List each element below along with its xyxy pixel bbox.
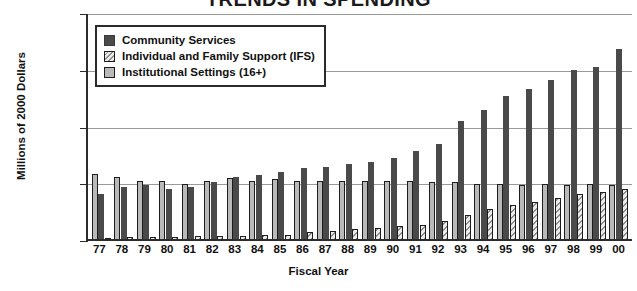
bar-individual-family-support-89 [375,228,381,239]
bar-community-services-99 [593,67,599,239]
bar-individual-family-support-98 [577,194,583,239]
y-axis-tick [80,241,88,242]
x-axis-tick-label-81: 81 [178,243,201,263]
bar-community-services-98 [571,70,577,239]
bar-community-services-78 [121,187,127,239]
x-axis-tick-label-79: 79 [133,243,156,263]
bar-institutional-settings-83 [227,178,233,239]
bar-institutional-settings-93 [452,182,458,239]
bar-group-90 [383,12,406,239]
bar-institutional-settings-80 [159,181,165,239]
bar-group-91 [405,12,428,239]
x-axis-tick-label-96: 96 [517,243,540,263]
chart-legend: Community Services Individual and Family… [95,25,326,87]
bar-institutional-settings-99 [587,184,593,239]
x-axis-tick-label-97: 97 [540,243,563,263]
bar-institutional-settings-91 [407,181,413,239]
bar-individual-family-support-87 [330,231,336,240]
chart-root: TRENDS IN SPENDING Millions of 2000 Doll… [0,0,637,291]
bar-group-97 [540,12,563,239]
legend-item-community-services: Community Services [104,32,315,48]
bar-group-93 [450,12,473,239]
bar-institutional-settings-78 [114,177,120,239]
legend-label: Individual and Family Support (IFS) [122,50,315,62]
x-axis-tick-label-91: 91 [404,243,427,263]
bar-individual-family-support-77 [105,238,111,239]
x-axis-tick-label-82: 82 [201,243,224,263]
bar-institutional-settings-81 [182,184,188,239]
x-axis-title: Fiscal Year [0,265,637,277]
y-axis-tick [80,184,88,185]
bar-institutional-settings-94 [474,184,480,239]
y-axis-tick [80,14,88,15]
x-axis-tick-labels: 7778798081828384858687888990919293949596… [86,243,632,263]
x-axis-tick-label-83: 83 [223,243,246,263]
bar-individual-family-support-93 [465,215,471,239]
bar-community-services-94 [481,110,487,239]
bar-institutional-settings-92 [429,182,435,239]
y-axis-tick [80,71,88,72]
legend-item-institutional-settings: Institutional Settings (16+) [104,64,315,80]
bar-institutional-settings-98 [564,185,570,239]
legend-swatch-community-services-icon [104,35,115,46]
x-axis-tick-label-88: 88 [336,243,359,263]
legend-label: Institutional Settings (16+) [122,66,266,78]
legend-swatch-institutional-icon [104,67,115,78]
bar-community-services-93 [458,121,464,239]
bar-individual-family-support-95 [510,205,516,239]
bar-institutional-settings-86 [294,181,300,239]
legend-item-individual-family-support: Individual and Family Support (IFS) [104,48,315,64]
bar-group-96 [518,12,541,239]
bar-community-services-92 [436,144,442,239]
bar-community-services-00 [616,49,622,239]
bar-community-services-95 [503,96,509,239]
bar-individual-family-support-96 [532,202,538,239]
x-axis-tick-label-92: 92 [427,243,450,263]
bar-community-services-84 [256,175,262,239]
x-axis-tick-label-77: 77 [88,243,111,263]
bar-group-98 [563,12,586,239]
bar-group-94 [473,12,496,239]
bar-community-services-88 [346,164,352,239]
bar-individual-family-support-90 [397,226,403,239]
x-axis-tick-label-89: 89 [359,243,382,263]
x-axis-tick-label-95: 95 [494,243,517,263]
bar-institutional-settings-85 [272,179,278,239]
bar-individual-family-support-78 [127,237,133,239]
x-axis-tick-label-80: 80 [156,243,179,263]
y-axis-title: Millions of 2000 Dollars [15,16,27,216]
bar-individual-family-support-80 [172,237,178,239]
bar-individual-family-support-84 [262,235,268,239]
bar-community-services-79 [143,185,149,239]
bar-individual-family-support-83 [240,236,246,239]
bar-group-88 [338,12,361,239]
bar-institutional-settings-89 [362,181,368,239]
x-axis-tick-label-84: 84 [246,243,269,263]
x-axis-tick-label-93: 93 [449,243,472,263]
bar-community-services-97 [548,80,554,239]
bar-group-92 [428,12,451,239]
bar-community-services-77 [98,194,104,239]
y-axis-tick [80,128,88,129]
bar-community-services-85 [278,172,284,239]
bar-individual-family-support-81 [195,236,201,239]
x-axis-tick-label-86: 86 [291,243,314,263]
bar-community-services-80 [166,189,172,239]
bar-institutional-settings-90 [384,181,390,239]
bar-individual-family-support-82 [217,236,223,239]
bar-individual-family-support-79 [150,237,156,239]
bar-community-services-96 [526,89,532,239]
bar-group-95 [495,12,518,239]
bar-individual-family-support-91 [420,225,426,239]
bar-individual-family-support-00 [622,189,628,239]
bar-individual-family-support-86 [307,232,313,239]
x-axis-tick-label-98: 98 [562,243,585,263]
bar-institutional-settings-79 [137,181,143,239]
x-axis-tick-label-99: 99 [585,243,608,263]
bar-group-00 [608,12,631,239]
bar-institutional-settings-77 [92,174,98,239]
x-axis-tick-label-87: 87 [314,243,337,263]
x-axis-tick-label-78: 78 [111,243,134,263]
bar-individual-family-support-88 [352,229,358,239]
bar-group-89 [360,12,383,239]
